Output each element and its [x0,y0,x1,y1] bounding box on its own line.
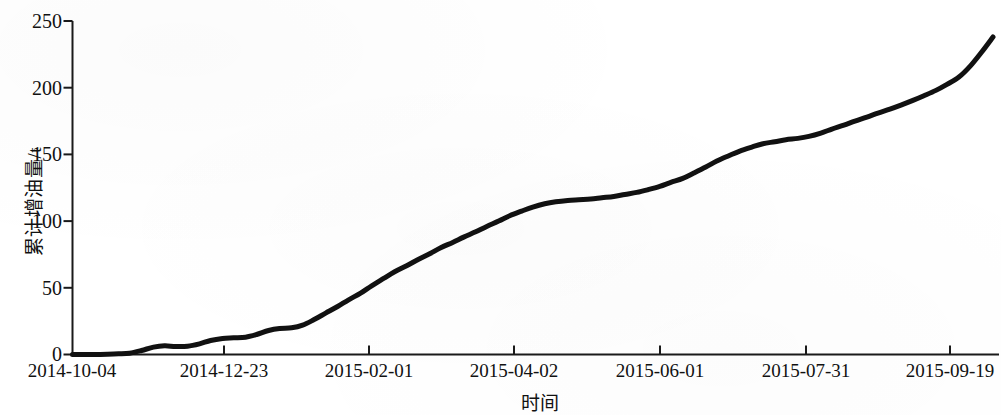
y-tick-250: 250 [8,11,62,31]
y-tick-50: 50 [8,278,62,298]
x-tick-label-5: 2015-07-31 [762,360,851,382]
x-tick-label-0: 2014-10-04 [28,360,117,382]
x-tick-label-6: 2015-09-19 [906,360,995,382]
axes [64,21,1000,355]
data-series-line [73,37,994,355]
x-tick-label-1: 2014-12-23 [180,360,269,382]
y-tick-label-50: 50 [42,278,62,298]
y-tick-200: 200 [8,78,62,98]
plot-area [0,0,1001,415]
x-tick-label-3: 2015-04-02 [470,360,559,382]
y-tick-100: 100 [8,211,62,231]
x-tick-label-4: 2015-06-01 [616,360,705,382]
x-tick-marks [224,346,950,355]
y-tick-150: 150 [8,144,62,164]
x-axis-title: 时间 [521,388,559,415]
y-tick-label-150: 150 [32,144,62,164]
y-tick-label-200: 200 [32,78,62,98]
y-tick-label-250: 250 [32,11,62,31]
x-tick-label-2: 2015-02-01 [325,360,414,382]
chart-figure: 累计增油量/t 250 200 150 100 50 0 2014-10-04 … [0,0,1001,415]
y-axis-title: 累计增油量/t [19,112,46,292]
y-tick-marks [64,21,73,355]
y-tick-label-100: 100 [32,211,62,231]
